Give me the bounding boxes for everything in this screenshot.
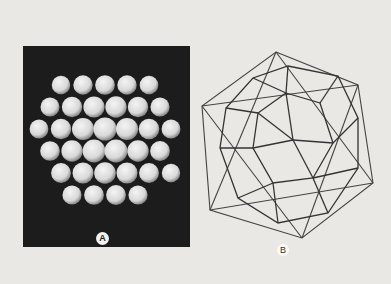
capsid-subunit: [150, 141, 170, 161]
edge: [202, 106, 302, 238]
edge: [253, 140, 293, 148]
capsid-subunit: [150, 97, 169, 116]
capsid-subunit: [62, 97, 82, 117]
capsid-subunit: [128, 97, 148, 117]
capsid-subunit: [83, 96, 104, 117]
capsid-subunit: [62, 185, 81, 204]
capsid-subunit: [116, 118, 138, 140]
capsid-subunit: [116, 162, 137, 183]
capsid-subunit: [95, 75, 115, 95]
capsid-subunit: [30, 120, 49, 139]
capsid-subunit: [73, 163, 94, 184]
capsid-subunit: [162, 120, 181, 139]
capsid-model-photo: [23, 46, 190, 247]
edge: [286, 66, 288, 93]
capsid-subunit: [105, 96, 126, 117]
edge: [273, 183, 278, 223]
capsid-subunit: [105, 140, 128, 163]
panel-label-b: B: [277, 244, 289, 256]
capsid-subunit: [61, 140, 82, 161]
edge: [253, 78, 286, 93]
edge: [286, 93, 293, 140]
capsid-subunit: [106, 185, 126, 205]
capsid-subunit: [139, 119, 160, 140]
capsid-subunit: [140, 76, 159, 95]
capsid-subunit: [51, 119, 71, 139]
panel-label-a: A: [96, 232, 109, 245]
capsid-subunit: [139, 163, 159, 183]
edge: [293, 140, 333, 143]
edge: [226, 108, 258, 113]
capsid-subunit: [127, 140, 148, 161]
edge: [333, 118, 358, 143]
edge: [313, 168, 358, 178]
capsid-subunit: [72, 118, 94, 140]
capsid-subunit: [40, 141, 60, 161]
capsid-subunit: [51, 163, 71, 183]
edge: [293, 140, 313, 178]
icosahedron-wireframe: [198, 48, 378, 242]
capsid-subunit: [73, 75, 92, 94]
capsid-subunit: [94, 162, 116, 184]
capsid-spheres: [23, 46, 190, 247]
wireframe-drawing: [198, 48, 378, 242]
edge: [202, 85, 358, 106]
capsid-subunit: [128, 185, 147, 204]
capsid-subunit: [52, 76, 70, 94]
capsid-subunit: [162, 164, 180, 182]
geodesic-outline: [220, 66, 358, 223]
capsid-subunit: [84, 185, 104, 205]
edge: [313, 178, 328, 213]
capsid-subunit: [93, 117, 116, 140]
capsid-subunit: [117, 75, 136, 94]
edge: [238, 183, 273, 198]
edge: [302, 85, 358, 238]
capsid-subunit: [41, 98, 60, 117]
capsid-subunit: [83, 140, 106, 163]
edge: [258, 113, 293, 140]
